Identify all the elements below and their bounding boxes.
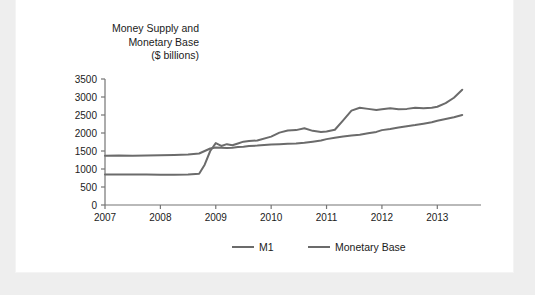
y-tick-label: 3500 [75,74,98,85]
x-tick-label: 2012 [371,212,394,223]
figure-card: Money Supply and Monetary Base ($ billio… [16,0,513,272]
y-tick-label: 1500 [75,146,98,157]
chart-legend: M1Monetary Base [232,241,406,253]
x-tick-label: 2009 [205,212,228,223]
x-tick-label: 2007 [94,212,117,223]
legend-label-0: M1 [259,241,274,253]
x-tick-label: 2008 [149,212,172,223]
x-axis: 2007200820092010201120122013 [94,205,481,223]
legend-label-1: Monetary Base [335,241,406,253]
y-tick-label: 3000 [75,92,98,103]
x-tick-label: 2011 [316,212,338,223]
line-chart: 0500100015002000250030003500 20072008200… [16,0,513,272]
y-tick-label: 2500 [75,110,98,121]
x-tick-label: 2010 [260,212,283,223]
series-line-m1 [105,115,462,156]
y-tick-label: 500 [80,182,97,193]
series-line-monetary-base [105,90,462,175]
y-tick-label: 2000 [75,128,98,139]
x-tick-label: 2013 [426,212,449,223]
y-tick-label: 1000 [75,164,98,175]
y-axis: 0500100015002000250030003500 [75,74,105,211]
y-tick-label: 0 [91,200,97,211]
data-series-group [105,90,462,175]
